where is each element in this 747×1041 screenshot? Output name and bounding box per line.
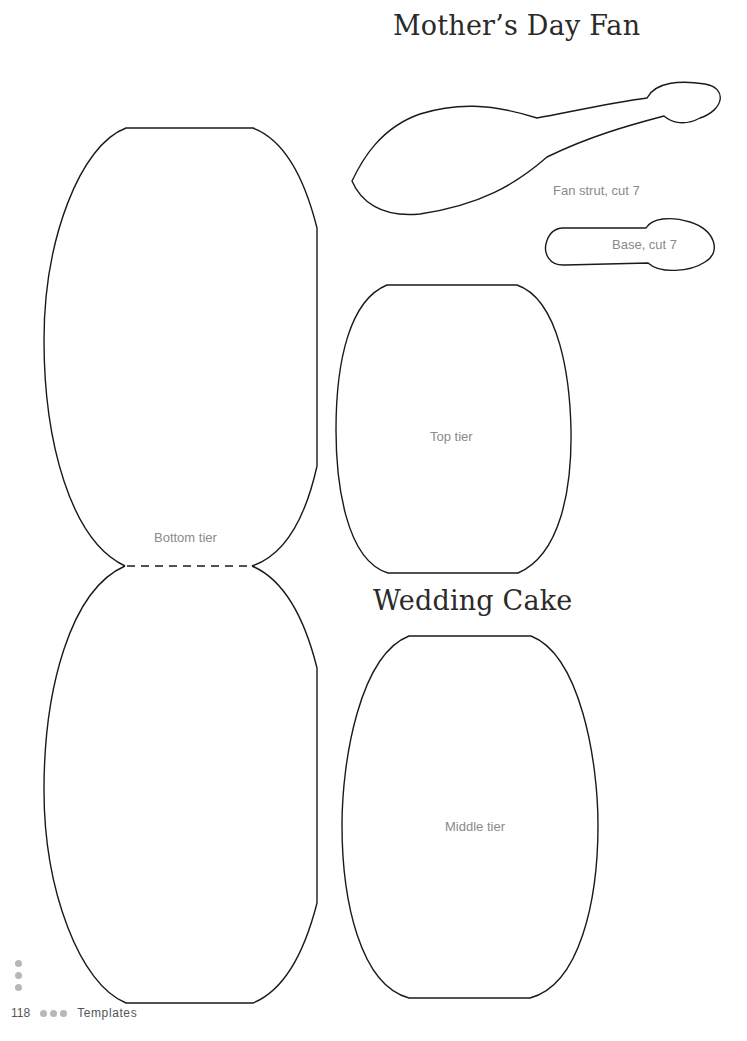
dot-icon (50, 1010, 57, 1017)
middle-tier-label: Middle tier (445, 819, 505, 834)
dot-icon (40, 1010, 47, 1017)
base-label: Base, cut 7 (612, 237, 677, 252)
mothers-day-fan-title: Mother’s Day Fan (393, 10, 640, 41)
bottom-tier-label: Bottom tier (154, 530, 217, 545)
middle-tier-shape (342, 636, 598, 998)
horizontal-dots-decoration (40, 1010, 67, 1017)
dot-icon (15, 972, 22, 979)
bottom-tier-upper-shape (44, 128, 317, 566)
dot-icon (15, 984, 22, 991)
section-name: Templates (77, 1006, 137, 1020)
wedding-cake-title: Wedding Cake (373, 585, 572, 616)
dot-icon (15, 960, 22, 967)
page-footer: 118 Templates (11, 1006, 137, 1020)
dot-icon (60, 1010, 67, 1017)
page-number: 118 (11, 1006, 30, 1020)
vertical-dots-decoration (15, 960, 22, 991)
top-tier-label: Top tier (430, 429, 473, 444)
bottom-tier-lower-shape (44, 566, 317, 1003)
fan-strut-shape (352, 82, 720, 214)
fan-strut-label: Fan strut, cut 7 (553, 183, 640, 198)
template-shapes (0, 0, 747, 1041)
